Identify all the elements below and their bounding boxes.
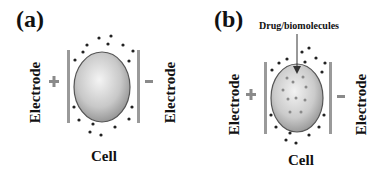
minus-sign <box>145 80 153 83</box>
plus-sign <box>246 89 256 100</box>
panel-a: (a) Electrode Electrode <box>0 0 192 174</box>
left-electrode <box>67 50 70 123</box>
electroporation-diagram-b <box>192 0 384 174</box>
left-electrode <box>264 62 267 134</box>
minus-sign <box>337 95 345 98</box>
cell-label: Cell <box>91 148 117 165</box>
cell <box>74 52 130 122</box>
right-electrode <box>329 62 332 134</box>
plus-sign <box>49 76 59 87</box>
cell-label: Cell <box>288 152 314 169</box>
panel-b: (b) Drug/biomolecules Electrode Electrod… <box>192 0 384 174</box>
arrow-icon <box>293 34 301 74</box>
right-electrode <box>137 50 140 123</box>
